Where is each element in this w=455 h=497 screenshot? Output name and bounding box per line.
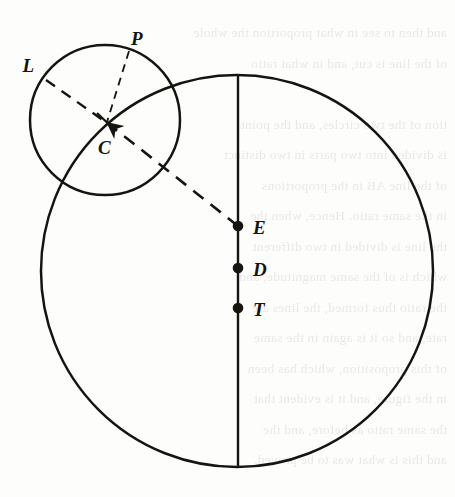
label-C: C [98,137,111,158]
dashed-ray-E-to-C [110,125,238,226]
label-P: P [130,28,143,49]
point-E-dot [233,221,244,232]
label-E: E [252,217,266,238]
label-D: D [252,259,267,280]
label-T: T [253,299,266,320]
label-L: L [21,55,34,76]
geometry-figure: L P C E D T [0,0,455,497]
dashed-segment-P-C [107,51,129,122]
center-point-C-tick [97,113,116,131]
point-D-dot [233,263,244,274]
dashed-chord-L-C [46,80,107,123]
scanned-page: and then to see in what proportion the w… [0,0,455,497]
point-T-dot [233,303,244,314]
